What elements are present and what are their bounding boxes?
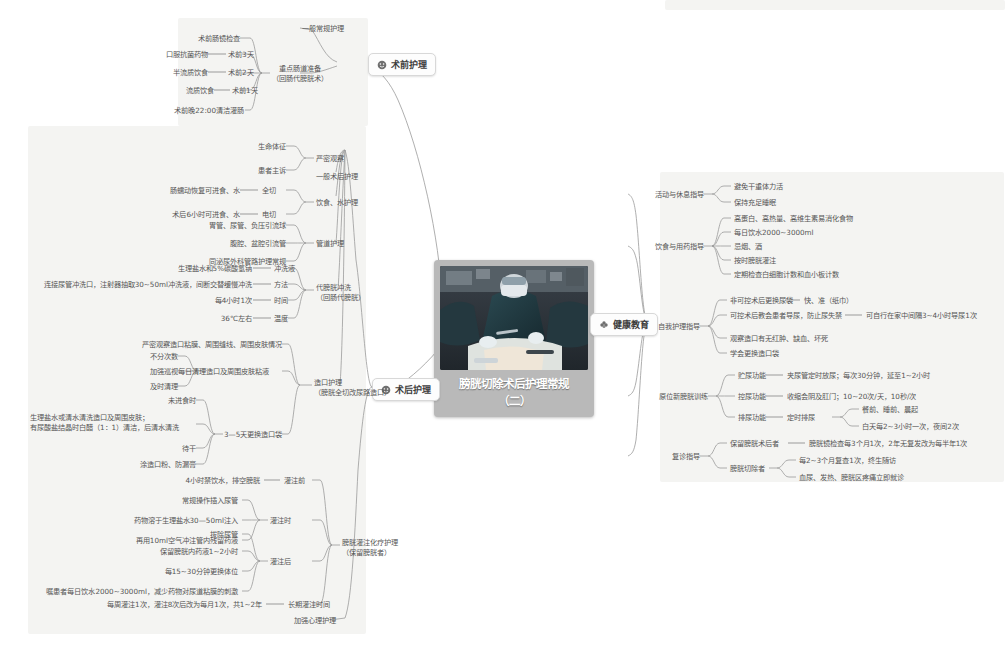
postop-diet-item-0[interactable]: 肠蠕动恢复可进食、水: [160, 186, 240, 196]
postop-stoma-clean-0[interactable]: 不分次数: [118, 352, 178, 362]
postop-tube-item-1[interactable]: 腹腔、盆腔引流管: [212, 239, 286, 249]
health-neobladder-item-1[interactable]: 控尿功能: [738, 392, 766, 402]
postop-chemo-during-1[interactable]: 药物溶于生理盐水30—50ml注入: [104, 516, 238, 526]
health-selfcare-item-3[interactable]: 学会更换造口袋: [730, 349, 779, 359]
health-void-sub-0[interactable]: 餐前、睡前、晨起: [862, 405, 918, 415]
postop-general-care[interactable]: 一般术后护理: [316, 172, 358, 182]
postop-diet-item-1-value[interactable]: 电切: [262, 210, 276, 220]
postop-stoma-bag-2[interactable]: 待干: [146, 444, 196, 454]
postop-chemo-before-title[interactable]: 灌注前: [284, 476, 305, 486]
health-neobladder-item-2[interactable]: 排尿功能: [738, 413, 766, 423]
stoma-line1: 造口护理: [314, 378, 391, 388]
preop-item-3[interactable]: 流质饮食: [140, 86, 214, 96]
postop-stoma-clean-2[interactable]: 及时清理: [118, 382, 178, 392]
preop-item-2[interactable]: 半流质饮食: [132, 68, 208, 78]
preop-item-1[interactable]: 口服抗菌药物: [132, 50, 208, 60]
postop-diet-title[interactable]: 饮食、水护理: [316, 198, 358, 208]
health-selfcare-item-0[interactable]: 非可控术后更换尿袋: [730, 296, 793, 306]
postop-irrigation-item-2-value[interactable]: 时间: [274, 296, 288, 306]
postop-chemo-after-2[interactable]: 每15~30分钟更换体位: [146, 567, 238, 577]
health-resect-sub-1[interactable]: 血尿、发热、膀胱区疼痛立即就诊: [799, 473, 904, 483]
postop-close-observe-title[interactable]: 严密观察: [316, 154, 344, 164]
health-neobladder-item-1-value[interactable]: 收缩会阴及肛门；10~20次/天，10秒/次: [787, 392, 916, 402]
postop-chemo-after-3[interactable]: 嘱患者每日饮水2000~3000ml，减少药物对尿道粘膜的刺激: [36, 587, 238, 597]
health-selfcare-title[interactable]: 自我护理指导: [640, 322, 700, 332]
postop-stoma-title[interactable]: 造口护理 （膀胱全切改尿路造口）: [314, 378, 391, 397]
preop-bowel-prep-title[interactable]: 重点肠道准备 （回肠代膀胱术）: [272, 64, 328, 83]
postop-chemo-after-title[interactable]: 灌注后: [270, 557, 291, 567]
top-right-panel: [665, 0, 1005, 10]
topic-preop[interactable]: 术前护理: [368, 53, 436, 76]
preop-general-care[interactable]: 一般常规护理: [302, 24, 344, 34]
preop-item-2-value[interactable]: 术前2天: [228, 68, 254, 78]
postop-stoma-bag-3[interactable]: 涂造口粉、防漏膏: [118, 460, 196, 470]
health-followup-title[interactable]: 复诊指导: [648, 452, 700, 462]
postop-irrigation-item-1[interactable]: 连接尿管冲洗口，注射器抽取30~50ml冲洗液，间断交替缓慢冲洗: [34, 280, 252, 290]
mindmap-canvas: 膀胱切除术后护理常规 （二） 术前护理 术后护理 健康教育 一般常规护理 重点肠…: [0, 0, 1007, 660]
health-diet-item-4[interactable]: 定期检查白细胞计数和血小板计数: [734, 270, 839, 280]
health-selfcare-item-1[interactable]: 可控术后教会患者导尿，防止尿失禁: [730, 311, 842, 321]
postop-stoma-clean-title[interactable]: 每日清理造口及周围皮肤粘液: [178, 367, 282, 377]
postop-tube-item-0[interactable]: 胃管、尿管、负压引流球: [190, 221, 286, 231]
center-node[interactable]: 膀胱切除术后护理常规 （二）: [434, 260, 594, 417]
health-diet-item-2[interactable]: 忌烟、酒: [734, 242, 762, 252]
postop-chemo-after-0[interactable]: 拔除尿管: [178, 530, 238, 540]
health-neobladder-item-2-value[interactable]: 定时排尿: [787, 413, 815, 423]
irrigation-line1: 代膀胱冲洗: [316, 283, 365, 293]
postop-irrigation-item-1-value[interactable]: 方法: [274, 280, 288, 290]
surgery-photo: [440, 266, 588, 370]
health-selfcare-item-1-value[interactable]: 可自行在家中间隔3~4小时导尿1次: [866, 311, 977, 321]
health-selfcare-item-0-value[interactable]: 快、准（纸巾）: [804, 296, 853, 306]
health-diet-item-0[interactable]: 高蛋白、高热量、高维生素易消化食物: [734, 214, 853, 224]
postop-chemo-during-title[interactable]: 灌注时: [270, 516, 291, 526]
health-diet-item-1[interactable]: 每日饮水2000~3000ml: [734, 228, 814, 238]
postop-chemo-longterm-0[interactable]: 每周灌注1次，灌注8次后改为每月1次，共1~2年: [58, 600, 262, 610]
bag-item-line1: 生理盐水或清水清洗造口及周围皮肤；: [30, 413, 179, 423]
health-activity-item-1[interactable]: 保持充足睡眠: [734, 198, 776, 208]
preop-item-3-value[interactable]: 术前1天: [232, 86, 258, 96]
postop-stoma-bag-title[interactable]: 3—5天更换造口袋: [224, 430, 282, 440]
postop-chemo-during-0[interactable]: 常规操作插入尿管: [150, 496, 238, 506]
health-neobladder-title[interactable]: 原位新膀胱训练: [648, 392, 708, 402]
postop-stoma-bag-1[interactable]: 生理盐水或清水清洗造口及周围皮肤； 有尿酸盐结晶时白醋（1：1）清洁，后清水清洗: [30, 413, 179, 432]
center-title: 膀胱切除术后护理常规 （二）: [440, 376, 588, 409]
postop-diet-item-1[interactable]: 术后6小时可进食、水: [156, 210, 240, 220]
health-diet-item-3[interactable]: 按时膀胱灌注: [734, 256, 776, 266]
preop-item-4[interactable]: 术前晚22:00清洁灌肠: [150, 106, 244, 116]
postop-stoma-observe[interactable]: 严密观察造口粘膜、周围缝线、周围皮肤情况: [110, 340, 282, 350]
preop-item-0[interactable]: 术前肠镜检查: [170, 34, 240, 44]
chemo-line2: （保留膀胱者）: [342, 548, 398, 558]
health-selfcare-item-2[interactable]: 观察造口有无红肿、缺血、坏死: [730, 334, 828, 344]
health-followup-item-0-value[interactable]: 膀胱镜检查每3个月1次，2年无复发改为每半年1次: [809, 439, 967, 449]
health-resect-sub-0[interactable]: 每2~3个月复查1次，终生随访: [799, 456, 896, 466]
postop-observe-item-0[interactable]: 生命体征: [242, 142, 286, 152]
postop-stoma-bag-0[interactable]: 未进食时: [136, 396, 196, 406]
postop-stoma-clean-1[interactable]: 加强巡视: [118, 367, 178, 377]
health-activity-item-0[interactable]: 避免干重体力活: [734, 182, 783, 192]
preop-item-1-value[interactable]: 术前3天: [228, 50, 254, 60]
postop-irrigation-item-3-value[interactable]: 温度: [274, 314, 288, 324]
postop-tube-title[interactable]: 管道护理: [316, 239, 344, 249]
health-neobladder-item-0[interactable]: 贮尿功能: [738, 371, 766, 381]
postop-psych-care[interactable]: 加强心理护理: [294, 616, 336, 626]
postop-chemo-longterm-title[interactable]: 长期灌注时间: [288, 600, 330, 610]
postop-irrigation-item-3[interactable]: 36℃左右: [186, 314, 252, 324]
postop-chemo-before-0[interactable]: 4小时禁饮水，排空膀胱: [148, 476, 260, 486]
health-neobladder-item-0-value[interactable]: 夹尿管定时放尿；每次30分钟，延至1~2小时: [787, 371, 930, 381]
health-void-sub-1[interactable]: 白天每2~3小时一次，夜间2次: [862, 422, 959, 432]
postop-chemo-title[interactable]: 膀胱灌注化疗护理 （保留膀胱者）: [342, 538, 398, 557]
postop-chemo-after-1[interactable]: 保留膀胱内药液1~2小时: [138, 547, 238, 557]
health-diet-title[interactable]: 饮食与用药指导: [636, 242, 704, 252]
health-activity-title[interactable]: 活动与休息指导: [636, 190, 704, 200]
postop-irrigation-title[interactable]: 代膀胱冲洗 （回肠代膀胱）: [316, 283, 365, 302]
postop-irrigation-item-0-value[interactable]: 冲洗液: [274, 264, 295, 274]
postop-irrigation-item-0[interactable]: 生理盐水和5%碳酸氢钠: [160, 264, 252, 274]
health-followup-item-0[interactable]: 保留膀胱术后者: [730, 439, 779, 449]
postop-irrigation-item-2[interactable]: 每4小时1次: [186, 296, 252, 306]
flower-icon: [599, 320, 609, 330]
postop-diet-item-0-value[interactable]: 全切: [262, 186, 276, 196]
health-followup-item-1[interactable]: 膀胱切除者: [730, 464, 765, 474]
bowel-prep-line1: 重点肠道准备: [272, 64, 328, 74]
postop-observe-item-1[interactable]: 患者主诉: [242, 166, 286, 176]
center-title-line2: （二）: [440, 393, 588, 410]
